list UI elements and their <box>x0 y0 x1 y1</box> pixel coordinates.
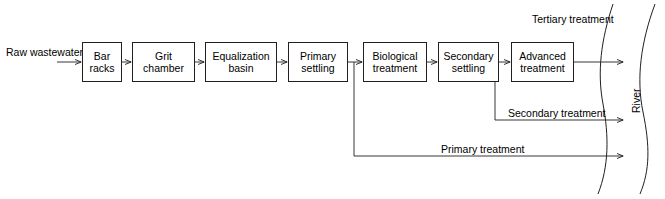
river-bank-left <box>598 4 613 194</box>
river-label: River <box>630 88 642 113</box>
process-box-advanced-treatment-line2: treatment <box>520 62 564 75</box>
process-box-bar-racks-line1: Bar <box>94 50 110 63</box>
process-box-grit-chamber-line2: chamber <box>143 62 184 75</box>
process-box-equalization-basin-line2: basin <box>228 62 253 75</box>
process-box-secondary-settling-line1: Secondary <box>443 50 493 63</box>
primary-treatment-label: Primary treatment <box>441 143 524 156</box>
process-flow-diagram: Raw wastewater Bar racks Grit chamber Eq… <box>0 0 665 199</box>
flow-connectors <box>0 0 665 199</box>
process-box-equalization-basin-line1: Equalization <box>212 50 269 63</box>
process-box-biological-treatment[interactable]: Biological treatment <box>363 42 427 82</box>
source-label-line2: wastewater <box>30 46 83 58</box>
source-label-line1: Raw <box>6 46 27 58</box>
source-label: Raw wastewater <box>6 46 82 59</box>
process-box-secondary-settling-line2: settling <box>452 62 485 75</box>
process-box-biological-treatment-line2: treatment <box>373 62 417 75</box>
process-box-equalization-basin[interactable]: Equalization basin <box>205 42 277 82</box>
tertiary-treatment-label: Tertiary treatment <box>532 13 612 26</box>
river-bank-right <box>640 4 655 194</box>
tertiary-treatment-label-line2: treatment <box>569 13 613 25</box>
process-box-secondary-settling[interactable]: Secondary settling <box>438 42 499 82</box>
process-box-primary-settling[interactable]: Primary settling <box>288 42 348 82</box>
process-box-primary-settling-line1: Primary <box>300 50 336 63</box>
process-box-advanced-treatment-line1: Advanced <box>519 50 566 63</box>
process-box-biological-treatment-line1: Biological <box>373 50 418 63</box>
secondary-treatment-label: Secondary treatment <box>508 107 605 120</box>
process-box-bar-racks[interactable]: Bar racks <box>82 42 122 82</box>
process-box-bar-racks-line2: racks <box>89 62 114 75</box>
process-box-grit-chamber-line1: Grit <box>155 50 172 63</box>
tertiary-treatment-label-line1: Tertiary <box>532 13 566 25</box>
process-box-grit-chamber[interactable]: Grit chamber <box>132 42 195 82</box>
process-box-primary-settling-line2: settling <box>301 62 334 75</box>
process-box-advanced-treatment[interactable]: Advanced treatment <box>511 42 574 82</box>
